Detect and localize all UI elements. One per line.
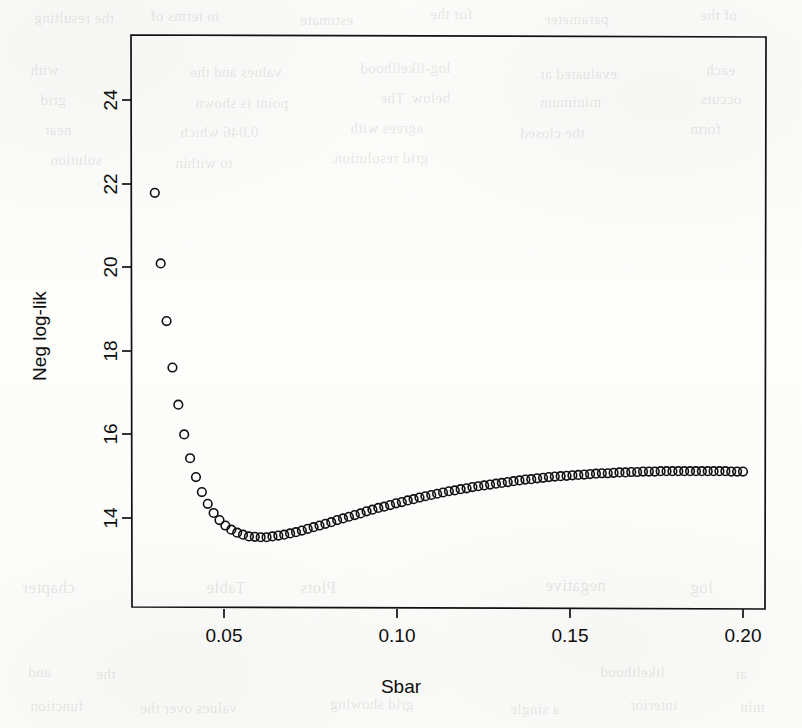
data-point — [156, 259, 165, 268]
data-point — [398, 498, 407, 507]
y-axis-tick-label: 18 — [100, 340, 121, 361]
data-point — [309, 523, 318, 532]
y-axis-label: Neg log-lik — [29, 236, 51, 436]
y-axis-tick-label: 22 — [100, 173, 121, 194]
data-point — [151, 189, 160, 198]
y-axis-tick-label: 24 — [100, 89, 121, 111]
data-point — [739, 467, 748, 476]
data-point — [350, 511, 359, 520]
data-point — [180, 430, 189, 439]
data-point — [315, 521, 324, 530]
data-point — [345, 512, 354, 521]
data-point — [303, 525, 312, 534]
data-point — [374, 504, 383, 513]
data-point — [450, 486, 459, 495]
data-point — [368, 505, 377, 514]
data-point — [292, 528, 301, 537]
y-axis-tick-label: 14 — [100, 507, 121, 529]
axis-group: 0.050.100.150.20141618202224 — [100, 35, 767, 646]
data-point — [186, 454, 195, 463]
data-point — [203, 499, 212, 508]
data-point — [168, 363, 177, 372]
x-axis-tick-label: 0.20 — [725, 625, 762, 646]
x-axis-label: Sbar — [0, 676, 802, 698]
data-point — [198, 488, 207, 497]
data-point — [162, 317, 171, 326]
x-axis-tick-label: 0.10 — [379, 625, 416, 646]
data-point — [298, 526, 307, 535]
data-point — [462, 484, 471, 493]
data-point — [403, 496, 412, 505]
y-axis-tick-label: 16 — [100, 423, 121, 444]
data-point — [286, 529, 295, 538]
data-point — [174, 400, 183, 409]
data-point — [415, 493, 424, 502]
plot-border-box — [131, 35, 766, 609]
data-point — [392, 499, 401, 508]
data-points-group — [151, 189, 748, 542]
data-point — [433, 489, 442, 498]
data-point — [386, 501, 395, 510]
data-point — [321, 520, 330, 529]
data-point — [439, 488, 448, 497]
data-point — [192, 473, 201, 482]
data-point — [380, 502, 389, 511]
x-axis-tick-label: 0.15 — [552, 625, 589, 646]
data-point — [409, 495, 418, 504]
plot-canvas: 0.050.100.150.20141618202224 — [0, 0, 802, 728]
data-point — [427, 491, 436, 500]
y-axis-tick-label: 20 — [100, 256, 121, 277]
data-point — [421, 492, 430, 501]
data-point — [280, 530, 289, 539]
data-point — [339, 514, 348, 523]
scatter-plot-figure: 0.050.100.150.20141618202224 Sbar Neg lo… — [0, 0, 802, 728]
x-axis-tick-label: 0.05 — [206, 625, 243, 646]
